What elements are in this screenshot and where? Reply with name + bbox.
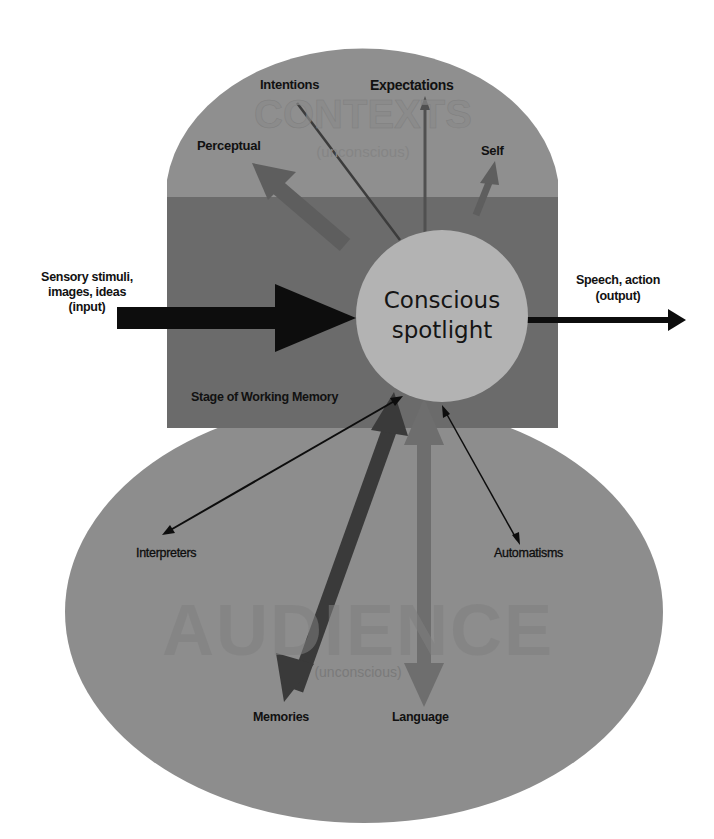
input-label: Sensory stimuli, images, ideas (input)	[22, 270, 152, 315]
audience-watermark: AUDIENCE	[162, 590, 554, 670]
contexts-subtitle: (unconscious)	[316, 143, 409, 160]
input-label-line1: Sensory stimuli,	[22, 270, 152, 285]
output-label-line2: (output)	[563, 288, 673, 304]
label-automatisms: Automatisms	[494, 546, 563, 560]
label-perceptual: Perceptual	[197, 138, 260, 153]
output-label-line1: Speech, action	[563, 272, 673, 288]
stage-label: Stage of Working Memory	[191, 390, 338, 404]
label-interpreters: Interpreters	[136, 546, 196, 560]
input-label-line3: (input)	[22, 300, 152, 315]
output-label: Speech, action (output)	[563, 272, 673, 304]
label-expectations: Expectations	[370, 77, 454, 93]
spotlight-label: Conscious spotlight	[362, 285, 522, 345]
global-workspace-diagram: CONTEXTS (unconscious) AUDIENCE (unconsc…	[0, 0, 714, 839]
spotlight-label-line2: spotlight	[362, 315, 522, 345]
label-intentions: Intentions	[260, 77, 319, 92]
spotlight-label-line1: Conscious	[362, 285, 522, 315]
label-language: Language	[392, 710, 449, 724]
audience-subtitle: (unconscious)	[314, 664, 401, 680]
label-self: Self	[481, 143, 504, 158]
label-memories: Memories	[253, 710, 309, 724]
input-label-line2: images, ideas	[22, 285, 152, 300]
contexts-watermark: CONTEXTS	[254, 92, 472, 136]
